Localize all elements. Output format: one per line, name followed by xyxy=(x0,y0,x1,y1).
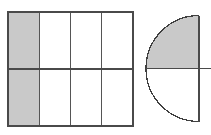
semicircle-figure xyxy=(146,16,211,122)
semicircle-sector-unshaded xyxy=(146,69,199,122)
grid-cell-unshaded xyxy=(39,69,70,126)
grid-cell-unshaded xyxy=(102,69,133,126)
grid-cell-unshaded xyxy=(39,12,70,69)
grid-cell-unshaded xyxy=(71,12,102,69)
figure-canvas xyxy=(0,0,211,135)
grid-cell-shaded xyxy=(8,69,39,126)
grid-cell-shaded xyxy=(8,12,39,69)
rectangle-grid-figure xyxy=(8,12,133,126)
grid-cell-unshaded xyxy=(71,69,102,126)
semicircle-sector-shaded xyxy=(146,16,199,69)
grid-cell-unshaded xyxy=(102,12,133,69)
diagram-svg xyxy=(0,0,211,135)
